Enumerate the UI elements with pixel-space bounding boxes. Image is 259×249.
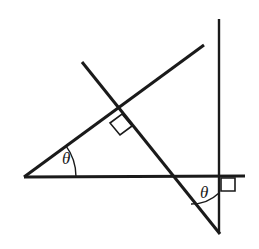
theta-label-lower: θ xyxy=(200,184,208,201)
right-angle-square-at-diagonals xyxy=(110,114,132,135)
geometry-canvas xyxy=(0,0,259,249)
right-angle-square-at-axes xyxy=(221,178,235,191)
ascending-transversal xyxy=(24,45,204,177)
descending-transversal xyxy=(82,62,220,234)
theta-label-upper: θ xyxy=(62,150,70,167)
horizontal-baseline xyxy=(24,176,245,177)
geometry-figure: θ θ xyxy=(0,0,259,249)
